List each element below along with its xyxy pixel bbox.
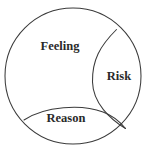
region-label-risk: Risk [107,69,131,83]
region-diagram: Feeling Risk Reason [0,0,146,153]
diagram-canvas: Feeling Risk Reason [0,0,146,153]
region-label-feeling: Feeling [41,39,81,53]
region-label-reason: Reason [47,111,86,125]
